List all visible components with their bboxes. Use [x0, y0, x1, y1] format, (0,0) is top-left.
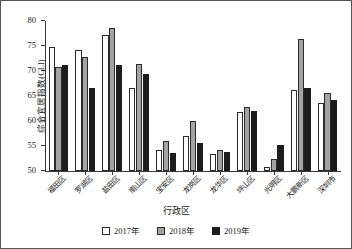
x-tick [220, 171, 221, 175]
legend-label: 2018年 [169, 227, 195, 236]
bar-2017-深圳市 [318, 103, 324, 171]
legend-item-2018[interactable]: 2018年 [157, 227, 195, 236]
plot-area: 50556065707580 [45, 21, 341, 171]
x-category-label: 坪山区 [236, 175, 256, 195]
bar-2017-光明区 [264, 167, 270, 172]
bar-2018-光明区 [271, 159, 277, 171]
bar-2019-盐田区 [116, 65, 122, 172]
bar-2018-大鹏新区 [298, 39, 304, 172]
bar-group [237, 21, 257, 171]
bar-group [183, 21, 203, 171]
chart-legend: 2017年2018年2019年 [1, 227, 351, 236]
x-tick [112, 171, 113, 175]
bar-2018-宝安区 [163, 141, 169, 171]
bar-2019-大鹏新区 [304, 88, 310, 171]
bar-2017-福田区 [49, 47, 55, 172]
bar-2019-深圳市 [331, 100, 337, 171]
bar-2019-宝安区 [170, 153, 176, 171]
x-category-label: 南山区 [128, 175, 148, 195]
y-tick: 80 [41, 20, 45, 21]
bar-2017-盐田区 [102, 35, 108, 171]
x-category-label: 深圳市 [317, 175, 337, 195]
x-category-label: 大鹏新区 [285, 175, 310, 200]
x-category-label: 罗湖区 [75, 175, 95, 195]
bar-2019-福田区 [62, 65, 68, 171]
bar-2018-盐田区 [109, 28, 115, 171]
bar-2017-宝安区 [156, 150, 162, 172]
bar-group [129, 21, 149, 171]
legend-item-2019[interactable]: 2019年 [212, 227, 250, 236]
legend-swatch-icon [212, 227, 220, 235]
bar-2018-龙岗区 [190, 121, 196, 171]
y-tick: 70 [41, 70, 45, 71]
bar-group [156, 21, 176, 171]
y-tick-label: 80 [28, 16, 37, 25]
x-tick [301, 171, 302, 175]
legend-label: 2017年 [114, 227, 140, 236]
bar-group [75, 21, 95, 171]
x-category-label: 光明区 [263, 175, 283, 195]
bar-2018-罗湖区 [82, 57, 88, 172]
bar-2019-罗湖区 [89, 88, 95, 171]
x-axis-title: 行政区 [1, 204, 351, 217]
y-tick-label: 65 [28, 91, 37, 100]
bar-group [264, 21, 284, 171]
x-category-label: 龙华区 [209, 175, 229, 195]
bar-2017-龙华区 [210, 154, 216, 172]
y-tick: 55 [41, 145, 45, 146]
y-tick-label: 60 [28, 116, 37, 125]
x-tick [166, 171, 167, 175]
y-tick: 60 [41, 120, 45, 121]
bar-2018-深圳市 [324, 93, 330, 171]
x-category-label: 龙岗区 [182, 175, 202, 195]
y-tick: 65 [41, 95, 45, 96]
x-category-label: 盐田区 [101, 175, 121, 195]
legend-swatch-icon [157, 227, 165, 235]
legend-swatch-icon [102, 227, 110, 235]
y-tick-label: 55 [28, 141, 37, 150]
bar-2017-龙岗区 [183, 136, 189, 172]
bar-2017-罗湖区 [75, 50, 81, 171]
bar-2019-龙华区 [224, 152, 230, 172]
x-category-label: 福田区 [48, 175, 68, 195]
x-tick [193, 171, 194, 175]
bar-group [49, 21, 69, 171]
bar-group [318, 21, 338, 171]
bar-group [210, 21, 230, 171]
bar-2017-坪山区 [237, 112, 243, 171]
bar-2018-龙华区 [217, 150, 223, 172]
x-tick [247, 171, 248, 175]
y-tick-label: 50 [28, 166, 37, 175]
bar-group [102, 21, 122, 171]
y-tick: 50 [41, 170, 45, 171]
legend-item-2017[interactable]: 2017年 [102, 227, 140, 236]
bar-2018-南山区 [136, 64, 142, 172]
y-tick: 75 [41, 45, 45, 46]
bar-2017-南山区 [129, 88, 135, 171]
bar-2019-坪山区 [251, 111, 257, 172]
bar-2018-福田区 [55, 67, 61, 172]
x-tick [139, 171, 140, 175]
x-category-label: 宝安区 [155, 175, 175, 195]
y-tick-label: 70 [28, 66, 37, 75]
bar-group [291, 21, 311, 171]
x-tick [328, 171, 329, 175]
bar-2019-光明区 [277, 145, 283, 172]
y-tick-label: 75 [28, 41, 37, 50]
legend-label: 2019年 [224, 227, 250, 236]
bar-2017-大鹏新区 [291, 90, 297, 171]
bar-2019-南山区 [143, 74, 149, 172]
chart-figure: 综合宜居指数(CLI) 50556065707580 福田区罗湖区盐田区南山区宝… [0, 0, 352, 249]
x-tick [274, 171, 275, 175]
bar-2019-龙岗区 [197, 143, 203, 171]
bar-2018-坪山区 [244, 107, 250, 172]
